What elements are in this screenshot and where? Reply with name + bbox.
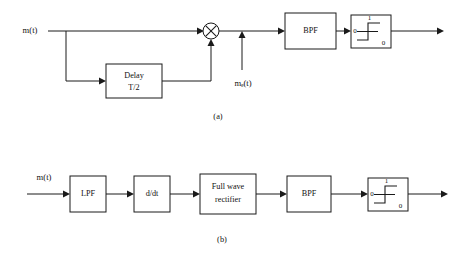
arrow-b-output: [441, 191, 448, 198]
diagram-a-delay-block[interactable]: [106, 64, 162, 98]
diagram-a-input-label: m(t): [23, 25, 38, 35]
arrow-b-into-ddt: [127, 191, 134, 198]
diagram-b-group: m(t) LPF d/dt Full wave rectifier: [27, 172, 448, 244]
diagram-a-comparator-high-label: 1: [368, 14, 372, 22]
diagram-b-caption: (b): [217, 235, 227, 244]
diagram-b-comparator-low-left-label: 0: [370, 190, 374, 198]
arrow-a-into-multiplier-bottom: [208, 39, 215, 46]
arrow-b-into-bpf: [280, 191, 287, 198]
diagram-a-caption: (a): [213, 112, 223, 121]
figure-root: m(t) Delay T/2: [0, 0, 460, 258]
diagram-a-comparator-low-right-label: 0: [382, 39, 386, 47]
diagram-b-differentiator-label: d/dt: [146, 189, 159, 198]
arrow-a-into-comparator: [344, 28, 351, 35]
diagram-a-comparator-low-left-label: 0: [353, 27, 357, 35]
arrow-a-into-delay: [99, 78, 106, 85]
arrow-b-into-rectifier: [193, 191, 200, 198]
diagram-b-rectifier-label-line2: rectifier: [215, 195, 241, 204]
diagram-b-rectifier-label-line1: Full wave: [212, 182, 245, 191]
arrow-a-output: [437, 28, 444, 35]
diagram-b-comparator-low-right-label: 0: [399, 202, 403, 210]
arrow-b-into-comparator: [361, 191, 368, 198]
diagram-b-bpf-label: BPF: [302, 189, 317, 198]
diagram-a-delay-label-line1: Delay: [124, 71, 144, 80]
diagram-b-input-label: m(t): [37, 172, 52, 182]
diagram-a-secondary-input-label: mₑ(t): [235, 78, 252, 88]
diagram-a-bpf-label: BPF: [303, 26, 318, 35]
arrow-a-into-bpf: [278, 28, 285, 35]
arrow-a-second-input: [239, 31, 246, 38]
diagram-b-comparator-high-label: 1: [385, 177, 389, 185]
diagram-a-delay-label-line2: T/2: [128, 83, 139, 92]
block-diagram-figure: m(t) Delay T/2: [0, 0, 460, 258]
diagram-b-lpf-label: LPF: [81, 189, 96, 198]
arrow-b-into-lpf: [63, 191, 70, 198]
diagram-a-group: m(t) Delay T/2: [23, 13, 444, 121]
